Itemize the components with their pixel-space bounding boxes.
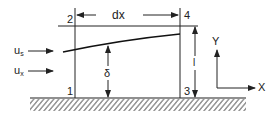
x-axis-label: X: [258, 82, 265, 93]
control-volume-diagram: [0, 0, 278, 117]
ground-surface: [30, 98, 246, 111]
inflow-label-ux: ux: [14, 65, 24, 77]
station-label-4: 4: [184, 10, 190, 21]
inflow-label-us: us: [14, 45, 24, 57]
coordinate-axes: [217, 50, 255, 88]
station-label-2: 2: [67, 14, 73, 25]
height-label: l: [193, 58, 195, 68]
station-label-3: 3: [184, 86, 190, 97]
y-axis-label: Y: [212, 36, 219, 47]
boundary-layer-curve: [63, 34, 180, 52]
station-label-1: 1: [67, 86, 73, 97]
delta-label: δ: [104, 68, 110, 79]
dx-label: dx: [112, 9, 125, 21]
